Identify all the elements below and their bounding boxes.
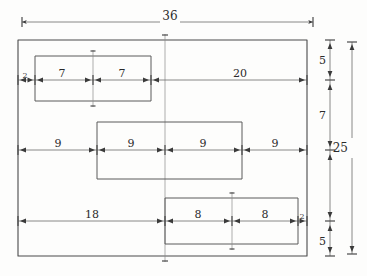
right-overall-label: 25 [333, 141, 348, 155]
row3-label-2: 8 [262, 208, 269, 221]
row3-dimension-chain: 18 8 8 2 [18, 208, 307, 226]
row2-arrow-g [244, 148, 250, 153]
right-seg-arrow-h [328, 247, 333, 253]
row2-arrow-h [299, 148, 305, 153]
row2-dimension-chain: 9 9 9 9 [18, 137, 307, 155]
row1-label-0: 2 [22, 71, 27, 80]
right-overall-dimension: 25 [333, 42, 357, 254]
row2-arrow-f [234, 148, 240, 153]
row1-label-3: 20 [233, 67, 247, 80]
row1-arrow-c [37, 78, 43, 83]
right-seg-label-top: 5 [319, 54, 326, 67]
row3-arrow-a [20, 219, 26, 224]
row2-arrow-a [20, 148, 26, 153]
row1-arrow-e [95, 78, 101, 83]
row1-label-1: 7 [59, 67, 66, 80]
row1-arrow-b [28, 78, 34, 83]
right-seg-label-middle: 7 [319, 109, 326, 122]
right-seg-arrow-e [328, 154, 333, 160]
row3-arrow-c [167, 219, 173, 224]
row3-label-0: 18 [85, 208, 99, 221]
row1-label-2: 7 [119, 67, 126, 80]
right-overall-arrow-bottom [350, 246, 355, 252]
row1-arrow-f [143, 78, 149, 83]
right-seg-arrow-a [328, 43, 333, 49]
row3-label-3: 2 [299, 212, 304, 221]
right-seg-arrow-g [328, 225, 333, 231]
row2-arrow-b [89, 148, 95, 153]
row3-arrow-e [234, 219, 240, 224]
row1-arrow-g [153, 78, 159, 83]
right-overall-arrow-top [350, 44, 355, 50]
row3-label-1: 8 [195, 208, 202, 221]
row2-arrow-e [167, 148, 173, 153]
row2-arrow-d [157, 148, 163, 153]
right-seg-arrow-b [328, 71, 333, 77]
row2-arrow-c [99, 148, 105, 153]
row1-arrow-d [85, 78, 91, 83]
engineering-drawing-canvas: 36 [0, 0, 367, 276]
right-seg-arrow-d [328, 141, 333, 147]
row1-dimension-chain: 2 7 7 20 [18, 67, 307, 85]
right-seg-arrow-c [328, 84, 333, 90]
row2-label-1: 9 [128, 137, 135, 150]
row2-label-2: 9 [200, 137, 207, 150]
row1-arrow-h [299, 78, 305, 83]
right-seg-label-bottom: 5 [319, 235, 326, 248]
row2-label-0: 9 [55, 137, 62, 150]
drawing-svg: 36 [0, 0, 367, 276]
row3-arrow-b [157, 219, 163, 224]
row3-arrow-d [224, 219, 230, 224]
row2-label-3: 9 [272, 137, 279, 150]
top-overall-dimension: 36 [22, 9, 313, 27]
right-seg-arrow-f [328, 212, 333, 218]
row3-arrow-f [290, 219, 296, 224]
top-overall-label: 36 [162, 9, 177, 23]
